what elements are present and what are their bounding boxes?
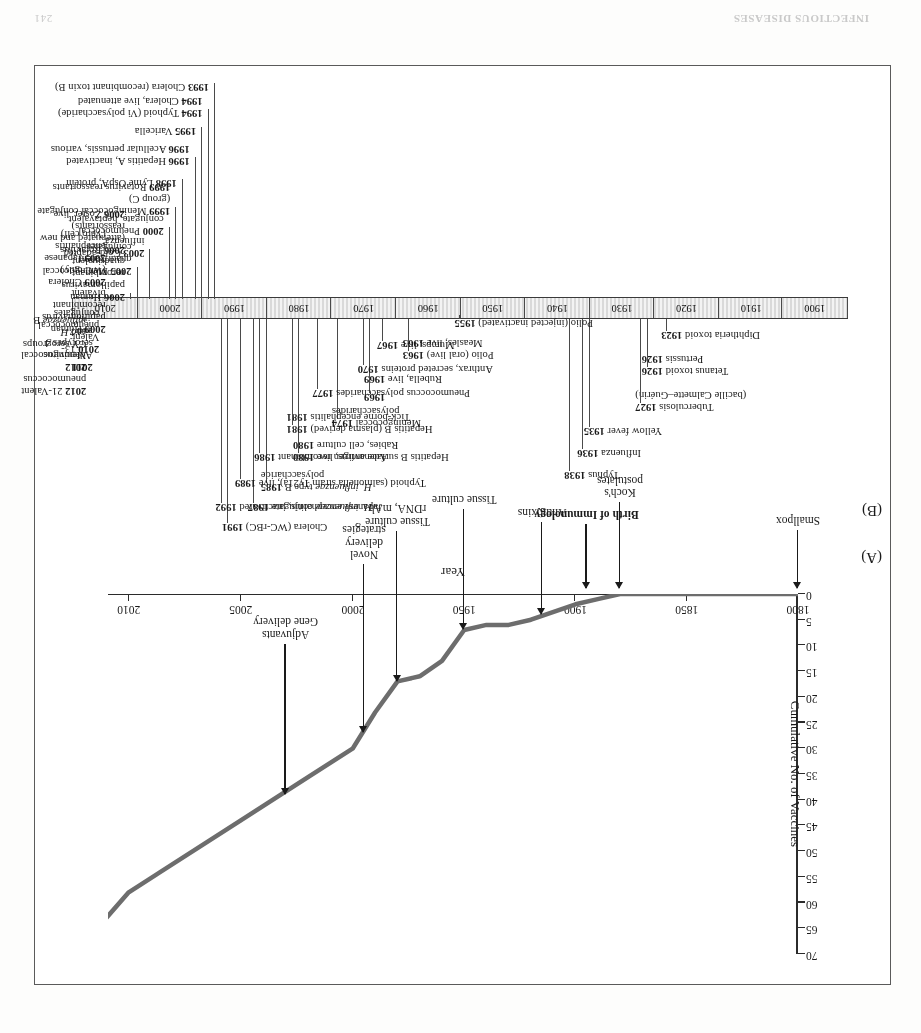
timeline-event-1923: Diphtheria toxoid 1923 [661, 329, 760, 341]
y-tick-label: 10 [806, 641, 832, 653]
timeline-decade-1980: 1980 [266, 298, 332, 318]
timeline-decade-1930: 1930 [589, 298, 655, 318]
timeline-leader-line [647, 319, 648, 367]
timeline-leader-line [460, 315, 461, 319]
timeline-leader-line [175, 207, 176, 299]
timeline-leader-line [195, 157, 196, 299]
panel-a-label: (A) [861, 549, 882, 566]
y-tick-label: 50 [806, 847, 832, 859]
timeline-decade-1950: 1950 [460, 298, 526, 318]
y-tick-label: 30 [806, 744, 832, 756]
y-tick [798, 927, 805, 928]
x-axis-title: Year [441, 564, 465, 580]
timeline-leader-line [150, 249, 151, 299]
timeline-leader-line [382, 319, 383, 341]
y-tick [798, 644, 805, 645]
timeline-leader-line [259, 319, 260, 453]
y-tick-label: 45 [806, 821, 832, 833]
y-tick-label: 35 [806, 770, 832, 782]
annotation-arrow [363, 564, 364, 732]
y-tick [798, 721, 805, 722]
timeline-leader-line [337, 319, 338, 419]
timeline-leader-line [569, 319, 570, 471]
scanned-page: (A) Cumulative No. of Vaccines Year 0510… [0, 0, 921, 1033]
timeline-axis: 1900191019201930194019501960197019801990… [73, 297, 848, 319]
timeline-decade-1910: 1910 [718, 298, 784, 318]
timeline-leader-line [169, 227, 170, 299]
timeline-decade-2000: 2000 [137, 298, 203, 318]
timeline-decade-1940: 1940 [524, 298, 590, 318]
timeline-event-1927: Tuberculosis 1927(bacille Calmette–Guéri… [635, 389, 746, 413]
page-footer-title: INFECTIOUS DISEASES [733, 13, 869, 25]
chart-annotation: Novel delivery strategies [342, 524, 385, 561]
timeline-event-1995: 1995 Varicella [135, 125, 196, 137]
timeline-event-1989: Typhoid (salmonella strain Ty21a), live … [235, 477, 426, 489]
timeline-decade-1960: 1960 [395, 298, 461, 318]
timeline-leader-line [214, 83, 215, 299]
timeline-leader-line [221, 319, 222, 503]
y-tick-label: 20 [806, 692, 832, 704]
timeline-event-1993: 1993 Cholera (recombinant toxin B) [55, 81, 209, 93]
y-tick [798, 619, 805, 620]
annotation-arrow [396, 531, 397, 681]
y-tick [798, 953, 805, 954]
timeline-leader-line [582, 319, 583, 449]
timeline-event-2012: 2012 21-Valent pneumococcus2012 Meningoc… [21, 314, 86, 397]
y-tick [798, 901, 805, 902]
timeline-decade-1990: 1990 [201, 298, 267, 318]
panel-b-label: (B) [862, 502, 882, 519]
y-tick-label: 55 [806, 872, 832, 884]
timeline-event-1977: Pneumococcus polysaccharides 1977 [312, 387, 470, 399]
timeline-event-1926: Tetanus toxoid 1926Pertussis 1926 [642, 353, 728, 377]
timeline-leader-line [182, 179, 183, 299]
chart-plot-area: Cumulative No. of Vaccines Year 05101520… [108, 594, 798, 954]
y-tick [798, 696, 805, 697]
timeline-decade-1900: 1900 [781, 298, 848, 318]
y-tick-label: 0 [806, 590, 832, 602]
timeline-decade-1970: 1970 [330, 298, 396, 318]
page-number: 241 [34, 13, 52, 25]
figure-frame: (A) Cumulative No. of Vaccines Year 0510… [34, 65, 891, 985]
timeline-leader-line [104, 295, 105, 299]
y-tick [798, 593, 805, 594]
timeline-event-1994: 1994 Typhoid (Vi polysaccharide)1994 Cho… [58, 95, 203, 119]
y-tick [798, 876, 805, 877]
y-tick [798, 670, 805, 671]
chart-annotation: Adjuvants Gene delivery [253, 616, 318, 641]
timeline-leader-line [640, 319, 641, 403]
panel-a-chart: (A) Cumulative No. of Vaccines Year 0510… [35, 529, 890, 984]
y-tick-label: 40 [806, 795, 832, 807]
timeline-leader-line [137, 267, 138, 299]
timeline-event-1991: Cholera (WC-rBC) 1991 [222, 521, 327, 533]
timeline-leader-line [369, 319, 370, 393]
timeline-decade-1920: 1920 [653, 298, 719, 318]
annotation-arrow [797, 530, 798, 588]
timeline-leader-line [227, 319, 228, 523]
timeline-leader-line [240, 319, 241, 479]
panel-b-timeline: (B) 190019101920193019401950196019701980… [35, 67, 890, 529]
timeline-event-1996: 1996 Hepatitis A, inactivated1996 Acellu… [51, 143, 190, 167]
timeline-event-1981: Hepatitis B (plasma derived) 1981Tick-bo… [287, 411, 433, 435]
timeline-event-1938: Typhus 1938 [564, 469, 619, 481]
y-tick [798, 824, 805, 825]
annotation-arrow [585, 524, 586, 588]
timeline-leader-line [253, 319, 254, 503]
timeline-event-1955: Polio (injected inactivated) 1955 [455, 317, 594, 329]
timeline-event-1935: Yellow fever 1935 [584, 425, 662, 437]
timeline-event-1936: Influenza 1936 [577, 447, 641, 459]
y-tick [798, 850, 805, 851]
timeline-leader-line [317, 319, 318, 389]
cumulative-vaccines-line [108, 594, 798, 954]
timeline-event-1992: Japanese encephalitis, inactivated 1992 [216, 501, 383, 513]
timeline-leader-line [91, 295, 92, 299]
timeline-leader-line [130, 293, 131, 299]
timeline-leader-line [666, 319, 667, 331]
y-tick-label: 25 [806, 718, 832, 730]
y-tick [798, 799, 805, 800]
annotation-arrow [541, 522, 542, 614]
y-tick-label: 15 [806, 667, 832, 679]
timeline-leader-line [98, 295, 99, 299]
y-tick-label: 5 [806, 615, 832, 627]
timeline-leader-line [292, 319, 293, 425]
timeline-leader-line [111, 295, 112, 299]
